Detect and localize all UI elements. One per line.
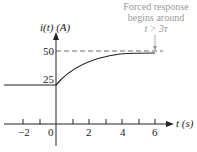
x-tick-2: 2 xyxy=(86,127,92,138)
annotation-arrow-icon xyxy=(153,46,157,51)
annotation-line-3: t > 3τ xyxy=(118,23,194,34)
y-axis-arrow-icon xyxy=(53,32,59,40)
annotation-line-1: Forced response xyxy=(118,1,194,12)
y-axis-label: i(t) (A) xyxy=(40,22,70,33)
y-tick-50: 50 xyxy=(43,46,54,57)
x-ticks xyxy=(23,119,155,124)
x-tick-4: 4 xyxy=(120,127,126,138)
response-curve xyxy=(4,53,155,85)
x-axis-arrow-icon xyxy=(166,121,174,127)
y-tick-25: 25 xyxy=(43,74,54,85)
annotation: Forced response begins around t > 3τ xyxy=(118,1,194,34)
annotation-line-2: begins around xyxy=(118,12,194,23)
x-tick-0: 0 xyxy=(48,127,54,138)
x-axis-label: t (s) xyxy=(176,118,193,129)
x-tick-m2: −2 xyxy=(18,127,30,138)
x-tick-6: 6 xyxy=(152,127,158,138)
